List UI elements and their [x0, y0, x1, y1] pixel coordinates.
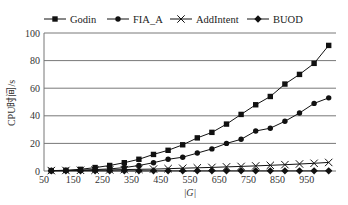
series-line [51, 45, 328, 170]
square-marker-icon [238, 112, 243, 117]
circle-marker-icon [165, 157, 170, 162]
square-marker-icon [195, 135, 200, 140]
circle-marker-icon [238, 137, 243, 142]
y-tick-label: 40 [30, 110, 40, 121]
x-axis-ticks: 50150250350450550650750850950 [39, 174, 314, 185]
x-tick-label: 350 [124, 174, 139, 185]
square-marker-icon [52, 16, 57, 21]
axes [44, 33, 336, 171]
square-marker-icon [297, 72, 302, 77]
y-axis-ticks: 020406080100 [25, 28, 40, 177]
series-godin [49, 43, 332, 174]
square-marker-icon [180, 142, 185, 147]
gridlines [44, 33, 336, 143]
circle-marker-icon [224, 141, 229, 146]
circle-marker-icon [311, 101, 316, 106]
legend: GodinFIA_AAddIntentBUOD [44, 14, 303, 25]
x-tick-label: 550 [183, 174, 198, 185]
x-tick-label: 850 [270, 174, 285, 185]
x-tick-label: 750 [241, 174, 256, 185]
y-tick-label: 20 [30, 138, 40, 149]
square-marker-icon [92, 165, 97, 170]
diamond-marker-icon [254, 15, 261, 22]
square-marker-icon [107, 163, 112, 168]
square-marker-icon [136, 157, 141, 162]
series-fia_a [49, 95, 332, 173]
circle-marker-icon [282, 119, 287, 124]
legend-label: Godin [70, 14, 97, 25]
circle-marker-icon [209, 146, 214, 151]
square-marker-icon [165, 148, 170, 153]
series-addintent [48, 159, 333, 175]
circle-marker-icon [122, 165, 127, 170]
square-marker-icon [209, 130, 214, 135]
circle-marker-icon [326, 95, 331, 100]
y-tick-label: 60 [30, 83, 40, 94]
circle-marker-icon [115, 16, 120, 21]
square-marker-icon [63, 168, 68, 173]
square-marker-icon [78, 167, 83, 172]
circle-marker-icon [253, 128, 258, 133]
legend-item-addintent: AddIntent [170, 14, 239, 25]
square-marker-icon [122, 160, 127, 165]
y-tick-label: 100 [25, 28, 40, 39]
legend-label: FIA_A [133, 14, 163, 25]
circle-marker-icon [268, 126, 273, 131]
series-line [51, 98, 328, 171]
legend-item-buod: BUOD [247, 14, 303, 25]
legend-label: AddIntent [196, 14, 239, 25]
circle-marker-icon [195, 150, 200, 155]
square-marker-icon [224, 121, 229, 126]
x-tick-label: 450 [153, 174, 168, 185]
square-marker-icon [282, 81, 287, 86]
circle-marker-icon [297, 110, 302, 115]
square-marker-icon [326, 43, 331, 48]
square-marker-icon [268, 94, 273, 99]
diamond-marker-icon [325, 167, 332, 174]
square-marker-icon [311, 61, 316, 66]
x-tick-label: 250 [95, 174, 110, 185]
circle-marker-icon [136, 163, 141, 168]
x-tick-label: 150 [66, 174, 81, 185]
square-marker-icon [151, 152, 156, 157]
x-tick-label: 950 [299, 174, 314, 185]
circle-marker-icon [151, 160, 156, 165]
square-marker-icon [49, 168, 54, 173]
series-lines [48, 43, 333, 175]
x-tick-label: 650 [212, 174, 227, 185]
y-tick-label: 80 [30, 55, 40, 66]
circle-marker-icon [180, 155, 185, 160]
square-marker-icon [253, 102, 258, 107]
y-axis-label: CPU时间/s [5, 80, 17, 126]
legend-item-godin: Godin [44, 14, 97, 25]
x-tick-label: 50 [39, 174, 49, 185]
legend-item-fia_a: FIA_A [107, 14, 163, 25]
legend-label: BUOD [273, 14, 303, 25]
x-axis-label: |G| [184, 187, 197, 198]
line-chart: GodinFIA_AAddIntentBUOD 020406080100 501… [0, 0, 348, 205]
